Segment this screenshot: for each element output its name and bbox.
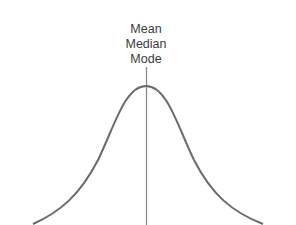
mean-label: Mean: [96, 22, 196, 37]
bell-curve: [33, 86, 263, 224]
median-label: Median: [96, 37, 196, 52]
normal-distribution-diagram: Mean Median Mode: [0, 0, 296, 225]
mode-label: Mode: [96, 52, 196, 67]
